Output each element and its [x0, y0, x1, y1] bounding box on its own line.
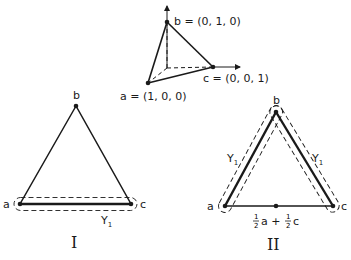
simplex-3d: b = (0, 1, 0) c = (0, 0, 1) a = (1, 0, 0… [120, 6, 269, 103]
svg-text:2: 2 [286, 222, 290, 230]
label-a-II: a [207, 200, 214, 213]
vertex-c-dot [211, 65, 216, 70]
vertex-a-dot-II [223, 204, 228, 209]
svg-text:a +: a + [261, 215, 280, 228]
label-a-coords: a = (1, 0, 0) [120, 90, 187, 103]
vertex-a-dot [146, 81, 151, 86]
vertex-c-dot-II [331, 204, 336, 209]
dashed-axis-c [167, 67, 213, 68]
svg-text:c: c [293, 215, 299, 228]
label-c-coords: c = (0, 0, 1) [203, 72, 269, 85]
label-b-I: b [73, 89, 80, 102]
label-c-II: c [341, 200, 347, 213]
panel-II: b a c Y1 Y1 1 2 a + 1 2 c II [207, 94, 347, 254]
edge-bc-II [276, 112, 333, 206]
vertex-b-dot [165, 20, 170, 25]
simplex-diagram: b = (0, 1, 0) c = (0, 0, 1) a = (1, 0, 0… [0, 0, 351, 260]
panel-I: b a c Y1 I [3, 89, 146, 252]
vertex-c-dot-I [129, 202, 134, 207]
svg-text:1: 1 [254, 213, 258, 221]
midpoint-label: 1 2 a + 1 2 c [253, 213, 299, 230]
label-a-I: a [3, 198, 10, 211]
roman-II: II [267, 235, 280, 254]
label-c-I: c [140, 198, 146, 211]
midpoint-dot-II [274, 204, 279, 209]
label-Y1-right: Y1 [311, 152, 323, 167]
svg-text:1: 1 [286, 213, 290, 221]
edge-bc-3d [167, 22, 213, 67]
roman-I: I [71, 233, 77, 252]
vertex-b-dot-II [274, 110, 279, 115]
label-b-II: b [273, 94, 280, 107]
triangle-I [20, 106, 131, 204]
label-b-coords: b = (0, 1, 0) [174, 15, 241, 28]
edge-ab-3d [148, 22, 167, 83]
label-Y1-left: Y1 [226, 152, 238, 167]
vertex-a-dot-I [18, 202, 23, 207]
vertex-b-dot-I [74, 104, 79, 109]
svg-text:2: 2 [254, 222, 258, 230]
label-Y1-I: Y1 [100, 214, 112, 229]
